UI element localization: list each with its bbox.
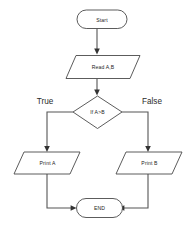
edge-read-to-decision (94, 79, 100, 96)
flowchart-canvas: Start Read A,B If A>B Print A Print B EN… (0, 0, 193, 235)
edge-printa-to-end (47, 174, 77, 211)
node-read[interactable]: Read A,B (66, 56, 140, 79)
read-label: Read A,B (92, 64, 115, 70)
branch-label-true: True (37, 97, 54, 106)
node-print-b[interactable]: Print B (116, 152, 182, 174)
edge-decision-to-printa (44, 112, 73, 152)
node-print-a[interactable]: Print A (14, 152, 80, 174)
node-start[interactable]: Start (77, 10, 127, 29)
node-decision[interactable]: If A>B (73, 96, 122, 129)
edge-start-to-read (94, 29, 100, 55)
print-b-label: Print B (141, 160, 158, 166)
branch-label-false: False (142, 97, 162, 106)
node-end[interactable]: END (77, 199, 123, 218)
edge-printb-to-end (119, 174, 149, 211)
flowchart-svg: Start Read A,B If A>B Print A Print B EN… (0, 0, 193, 235)
edge-decision-to-printb (122, 112, 151, 152)
decision-label: If A>B (90, 109, 105, 115)
end-label: END (94, 205, 105, 211)
print-a-label: Print A (39, 160, 56, 166)
start-label: Start (96, 17, 108, 23)
